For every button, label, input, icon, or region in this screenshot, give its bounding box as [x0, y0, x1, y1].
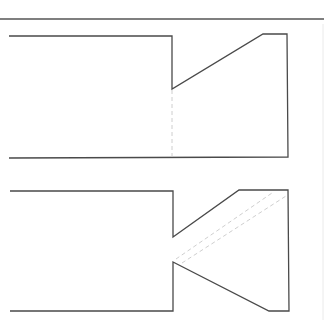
lower-profile-hidden-line: [176, 193, 272, 259]
lower-profile-hidden-lines: [176, 193, 286, 263]
lower-profile-hidden-line: [182, 196, 286, 263]
lower-profile-figure: [10, 190, 289, 311]
lower-profile-outline: [10, 190, 289, 311]
diagram-canvas: [0, 0, 324, 329]
upper-profile-figure: [9, 34, 288, 158]
upper-profile-outline: [9, 34, 288, 158]
